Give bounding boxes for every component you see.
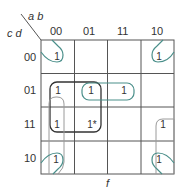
cell-r10-c00: 1 (53, 155, 59, 165)
cell-r01-c11: 1 (121, 86, 127, 96)
cell-r11-c00: 1 (54, 120, 60, 130)
row-header-10: 10 (24, 153, 36, 164)
row-header-11: 11 (24, 119, 35, 130)
cell-r01-c01: 1 (88, 86, 94, 96)
cell-r11-c01: 1* (87, 120, 96, 130)
col-header-11: 11 (117, 26, 128, 37)
row-header-01: 01 (24, 85, 36, 96)
cell-r01-c00: 1 (55, 86, 61, 96)
col-header-00: 00 (50, 26, 62, 37)
function-label: f (106, 178, 109, 189)
row-variables-label: c d (7, 28, 22, 39)
cell-r00-c00: 1 (54, 52, 60, 62)
col-header-10: 10 (151, 26, 163, 37)
cell-r10-c10: 1 (156, 155, 162, 165)
col-header-01: 01 (83, 26, 95, 37)
cell-r00-c10: 1 (156, 52, 162, 62)
col-variables-label: a b (28, 11, 43, 22)
cell-r11-c10: 1 (160, 120, 166, 130)
karnaugh-map: a b c d 00 01 11 10 00 01 11 10 1 1 1 1 … (0, 0, 187, 192)
row-header-00: 00 (24, 52, 36, 63)
group-corner-bottom-left (41, 153, 63, 174)
